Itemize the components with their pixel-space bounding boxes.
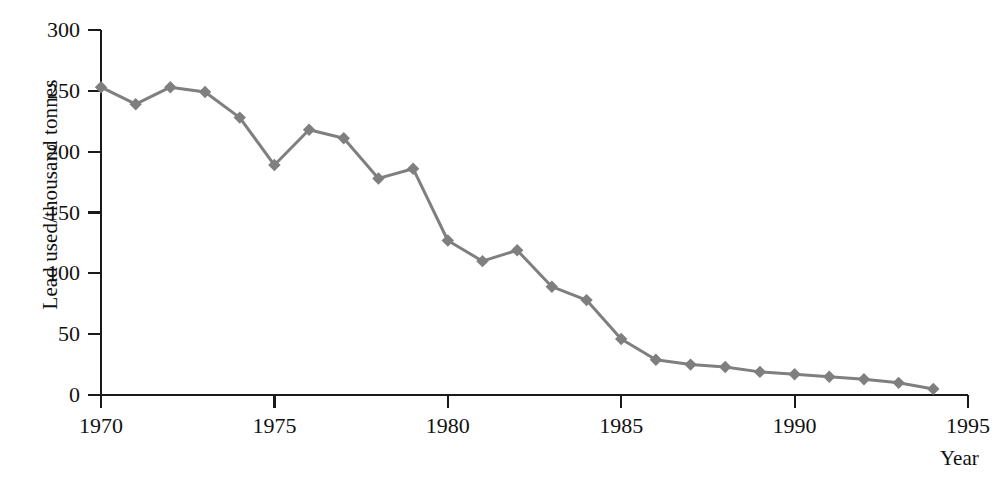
x-tick-label: 1995 [908,415,1005,437]
data-point-marker [476,255,488,267]
y-tick-label: 0 [0,384,80,406]
x-tick-label: 1975 [214,415,334,437]
series-line-lead-used [101,87,933,389]
data-point-marker [442,234,454,246]
data-point-marker [650,354,662,366]
data-point-marker [719,361,731,373]
x-axis-title: Year [940,446,979,471]
data-point-marker [684,358,696,370]
data-point-marker [892,377,904,389]
axis-ticks [88,30,968,408]
axis-lines [101,30,968,395]
data-line [101,87,933,389]
data-markers [95,81,940,395]
x-tick-label: 1980 [388,415,508,437]
x-tick-label: 1985 [561,415,681,437]
y-tick-label: 300 [0,19,80,41]
data-point-marker [407,163,419,175]
chart-plot-area [0,0,1005,485]
data-point-marker [129,98,141,110]
data-point-marker [788,368,800,380]
x-tick-label: 1970 [41,415,161,437]
data-point-marker [754,366,766,378]
data-point-marker [164,81,176,93]
lead-usage-line-chart: 050100150200250300 197019751980198519901… [0,0,1005,485]
data-point-marker [858,373,870,385]
y-axis-title: Lead used/thousand tonnes [38,50,63,340]
data-point-marker [927,383,939,395]
data-point-marker [823,371,835,383]
x-tick-label: 1990 [735,415,855,437]
